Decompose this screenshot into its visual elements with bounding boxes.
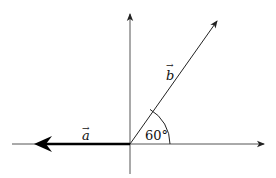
vector-diagram: a → b → 60°: [0, 0, 276, 178]
vector-b-arrow-accent: →: [166, 60, 174, 70]
label-a: a →: [82, 123, 90, 143]
label-b: b →: [166, 60, 174, 83]
vector-a-arrow-accent: →: [82, 123, 90, 133]
angle-label: 60°: [145, 128, 168, 143]
vector-b-label: b: [166, 68, 174, 83]
